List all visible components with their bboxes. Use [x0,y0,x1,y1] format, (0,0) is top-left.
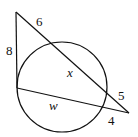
geometry-diagram: 8 6 x 5 w 4 [0,0,138,137]
lower-secant [17,88,129,113]
label-upper-external: 6 [36,14,43,29]
label-upper-chord: x [66,65,73,80]
circle [17,42,107,132]
label-tangent-length: 8 [6,43,13,58]
tangent-segment [16,12,17,88]
label-upper-right-external: 5 [118,88,125,103]
upper-secant [16,12,129,113]
label-lower-chord: w [49,98,58,113]
label-lower-external: 4 [108,113,115,128]
